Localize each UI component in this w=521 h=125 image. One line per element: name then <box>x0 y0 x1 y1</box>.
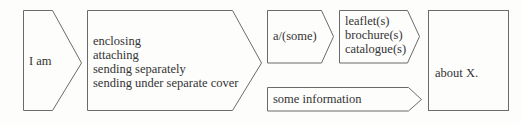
box-subject: I am <box>29 54 52 68</box>
topic-text: about X. <box>435 66 478 80</box>
item-option-leaflets: leaflet(s) <box>345 14 406 28</box>
verb-option-sending-separately: sending separately <box>93 62 238 76</box>
box-info: some information <box>273 92 362 106</box>
box-verb: enclosing attaching sending separately s… <box>93 34 238 90</box>
verb-option-sending-under-separate-cover: sending under separate cover <box>93 76 238 90</box>
box-article: a/(some) <box>273 29 317 43</box>
box-topic: about X. <box>435 66 478 80</box>
verb-option-enclosing: enclosing <box>93 34 238 48</box>
box-items: leaflet(s) brochure(s) catalogue(s) <box>345 14 406 56</box>
subject-text: I am <box>29 54 52 68</box>
verb-option-attaching: attaching <box>93 48 238 62</box>
item-option-catalogues: catalogue(s) <box>345 42 406 56</box>
box-topic-shape <box>429 11 509 111</box>
info-text: some information <box>273 92 362 106</box>
item-option-brochures: brochure(s) <box>345 28 406 42</box>
diagram-shapes <box>0 0 521 125</box>
article-text: a/(some) <box>273 29 317 43</box>
